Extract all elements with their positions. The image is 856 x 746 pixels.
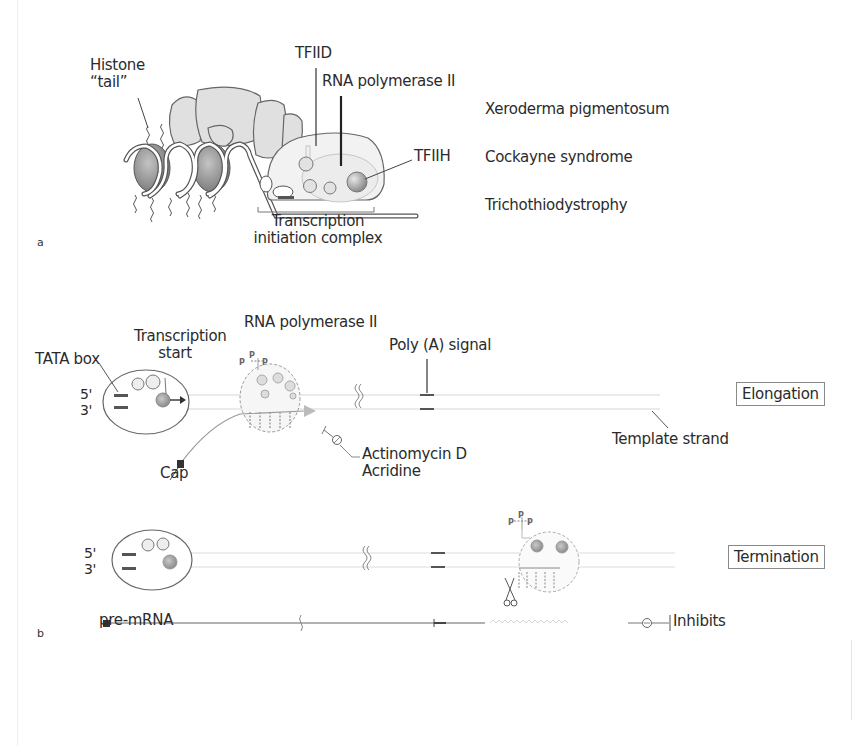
diagram-canvas [0,0,856,746]
termination-diagram [103,517,675,631]
termination-stage-box: Termination [728,545,825,569]
five-prime-label: 5' [80,386,92,402]
elongation-stage-box: Elongation [736,382,825,406]
disease-xeroderma: Xeroderma pigmentosum [485,101,669,118]
phospho-label-right: P [262,358,268,367]
tfiid-label: TFIID [295,45,332,62]
nucleosomes [134,144,230,192]
rna-pol-ii-label-a: RNA polymerase II [322,73,455,90]
initiation-complex-label-line1: Transcription [248,213,388,230]
three-prime-label-termination: 3' [84,561,96,577]
phospho-label-left: P [239,358,245,367]
actinomycin-d-label: Actinomycin D [362,446,467,463]
acridine-label: Acridine [362,463,467,480]
pre-mrna-label: pre-mRNA [99,612,173,629]
tata-box-label: TATA box [35,351,100,368]
three-prime-label: 3' [80,402,92,418]
transcription-start-line2: start [134,345,216,362]
transcription-start-line1: Transcription [134,328,216,345]
initiation-complex-label: Transcription initiation complex [248,213,388,248]
poly-a-signal-label: Poly (A) signal [389,337,491,354]
inhibitor-label: Actinomycin D Acridine [362,446,467,481]
five-prime-label-termination: 5' [84,545,96,561]
phospho-label-top: P [249,351,255,360]
tfiih-label: TFIIH [414,148,450,165]
initiation-complex-label-line2: initiation complex [248,230,388,247]
disease-trichothiodystrophy: Trichothiodystrophy [485,197,627,214]
figure-page: Histone “tail” TFIID RNA polymerase II T… [0,0,856,746]
histone-tail-label-line2: “tail” [90,74,145,91]
pre-mrna-text: pre-mRNA [99,611,173,629]
histone-tail-label: Histone “tail” [90,57,145,92]
phospho-label-term-top: P [518,511,524,520]
template-strand-label: Template strand [612,431,729,448]
disease-cockayne: Cockayne syndrome [485,149,632,166]
inhibits-legend-label: Inhibits [673,613,726,630]
phospho-label-term-left: P [508,518,514,527]
histone-tail-label-line1: Histone [90,57,145,74]
cap-label: Cap [160,465,188,482]
transcription-start-label: Transcription start [134,328,216,363]
phospho-label-term-right: P [527,518,533,527]
scissors-icon [504,578,517,606]
panel-b-letter: b [37,627,44,640]
panel-a-letter: a [37,236,44,249]
rna-pol-ii-label-b: RNA polymerase II [244,314,377,331]
